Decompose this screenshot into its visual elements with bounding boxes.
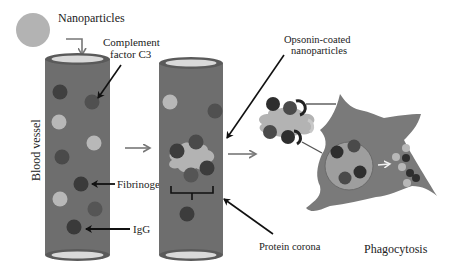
digestion-arrow [378,164,389,165]
igg-label: IgG [133,223,150,235]
complement-c3-label-line1: Complement [103,36,160,48]
phagocytosis-label: Phagocytosis [364,242,428,256]
blood-vessel-2 [159,57,223,261]
free-nanoparticle [16,13,50,47]
nanoparticle-opsonization-diagram: Nanoparticles Blood vessel Complement fa… [0,0,454,271]
opsonin-coated-label-line2: nanoparticles [291,45,347,56]
protein-corona-label: Protein corona [259,241,321,252]
opsonized-nanoparticle [259,97,336,153]
protein-corona-arrow [224,199,273,234]
opsonin-coated-label-line1: Opsonin-coated [284,34,351,45]
blood-vessel-label: Blood vessel [29,119,43,181]
phagocyte-cell [306,94,437,211]
entry-arrow [66,39,82,54]
complement-c3-label-line2: factor C3 [110,48,152,60]
fibrinogen-label: Fibrinogen [117,178,166,190]
nanoparticles-label: Nanoparticles [58,11,125,25]
